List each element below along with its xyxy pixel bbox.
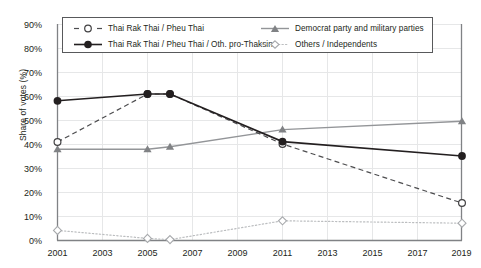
- x-tick-label: 2009: [218, 248, 258, 258]
- chart-legend: Thai Rak Thai / Pheu Thai Democrat party…: [62, 17, 433, 53]
- legend-item-democrat-military[interactable]: Democrat party and military parties: [260, 23, 424, 34]
- legend-item-others-independents[interactable]: Others / Independents: [260, 39, 377, 50]
- x-tick-label: 2007: [173, 248, 213, 258]
- x-tick-label: 2003: [83, 248, 123, 258]
- legend-item-label: Thai Rak Thai / Pheu Thai / Oth. pro-Tha…: [108, 40, 273, 49]
- open-circle-dashed-icon: [73, 23, 103, 34]
- x-tick-label: 2005: [128, 248, 168, 258]
- x-tick-label: 2017: [398, 248, 438, 258]
- filled-circle-solid-icon: [73, 39, 103, 50]
- legend-item-thai-rak-thai-pheu-thai[interactable]: Thai Rak Thai / Pheu Thai: [73, 23, 204, 34]
- chart-container: Share of votes (%) 90% 80% 70% 60% 50% 4…: [0, 0, 481, 268]
- legend-item-label: Democrat party and military parties: [295, 24, 424, 33]
- x-tick-label: 2015: [353, 248, 393, 258]
- filled-triangle-solid-icon: [260, 23, 290, 34]
- legend-item-label: Others / Independents: [295, 40, 377, 49]
- x-tick-label: 2013: [308, 248, 348, 258]
- legend-item-pro-thaksin-total[interactable]: Thai Rak Thai / Pheu Thai / Oth. pro-Tha…: [73, 39, 273, 50]
- x-tick-label: 2019: [442, 248, 481, 258]
- x-tick-label: 2011: [263, 248, 303, 258]
- open-diamond-dotted-icon: [260, 39, 290, 50]
- legend-item-label: Thai Rak Thai / Pheu Thai: [108, 24, 204, 33]
- x-tick-label: 2001: [38, 248, 78, 258]
